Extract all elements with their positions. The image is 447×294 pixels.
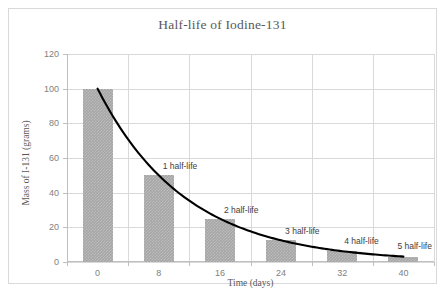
y-tick-mark: [63, 54, 67, 55]
y-tick-label: 100: [19, 84, 59, 94]
x-tick-mark: [189, 262, 190, 266]
y-tick-label: 20: [19, 222, 59, 232]
gridline-vertical: [373, 54, 374, 262]
plot-area: 1 half-life2 half-life3 half-life4 half-…: [67, 54, 434, 262]
x-tick-mark: [67, 262, 68, 266]
y-tick-label: 60: [19, 153, 59, 163]
bar: [205, 219, 235, 262]
gridline-vertical: [251, 54, 252, 262]
chart-frame: Half-life of Iodine-131 Mass of I-131 (g…: [8, 8, 437, 284]
chart-title: Half-life of Iodine-131: [9, 17, 436, 33]
x-tick-label: 40: [383, 268, 423, 278]
x-tick-mark: [312, 262, 313, 266]
half-life-annotation: 3 half-life: [285, 226, 320, 236]
bar: [327, 251, 357, 262]
x-tick-label: 8: [139, 268, 179, 278]
bar: [83, 89, 113, 262]
x-tick-label: 16: [200, 268, 240, 278]
y-tick-mark: [63, 89, 67, 90]
half-life-annotation: 4 half-life: [344, 236, 379, 246]
y-tick-mark: [63, 193, 67, 194]
gridline-vertical: [128, 54, 129, 262]
half-life-annotation: 5 half-life: [397, 241, 432, 251]
y-tick-label: 0: [19, 257, 59, 267]
half-life-annotation: 1 half-life: [163, 161, 198, 171]
gridline-vertical: [189, 54, 190, 262]
bar: [388, 257, 418, 262]
x-tick-mark: [251, 262, 252, 266]
bar: [266, 240, 296, 262]
y-tick-label: 120: [19, 49, 59, 59]
half-life-annotation: 2 half-life: [224, 205, 259, 215]
y-axis-title: Mass of I-131 (grams): [21, 83, 31, 243]
y-tick-mark: [63, 123, 67, 124]
bar: [144, 175, 174, 262]
y-tick-label: 80: [19, 118, 59, 128]
y-axis-line: [67, 54, 68, 262]
y-tick-mark: [63, 158, 67, 159]
x-tick-mark: [128, 262, 129, 266]
x-axis-title: Time (days): [67, 278, 434, 288]
x-tick-label: 32: [322, 268, 362, 278]
x-tick-label: 24: [261, 268, 301, 278]
x-tick-label: 0: [78, 268, 118, 278]
x-tick-mark: [434, 262, 435, 266]
gridline-vertical: [434, 54, 435, 262]
y-tick-mark: [63, 227, 67, 228]
x-tick-mark: [373, 262, 374, 266]
y-tick-label: 40: [19, 188, 59, 198]
